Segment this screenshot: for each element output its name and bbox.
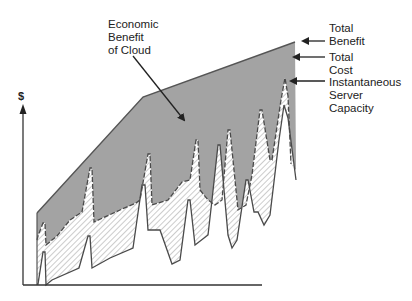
economic-benefit-label: Economic Benefit of Cloud bbox=[108, 18, 159, 57]
total-cost-label: Total Cost bbox=[329, 51, 353, 77]
y-axis-label: $ bbox=[18, 90, 24, 102]
total-benefit-label: Total Benefit bbox=[329, 22, 365, 48]
server-capacity-label: Instantaneous Server Capacity bbox=[329, 76, 401, 115]
y-axis-arrow-icon bbox=[20, 104, 27, 114]
